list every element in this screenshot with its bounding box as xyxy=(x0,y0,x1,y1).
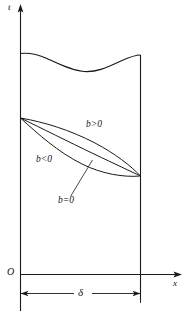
free-surface-curve xyxy=(21,53,141,71)
x-axis-label: x xyxy=(173,279,177,288)
delta-label: δ xyxy=(78,287,83,298)
figure-container: t x O δ b>0 b<0 b=0 xyxy=(0,0,185,318)
figure-canvas xyxy=(0,0,185,318)
t-axis-label: t xyxy=(8,3,11,12)
curve-label-b-positive-text: b>0 xyxy=(86,119,102,129)
curve-label-b-negative: b<0 xyxy=(36,155,52,165)
b-zero-leader-line xyxy=(71,160,93,197)
curve-label-b-positive: b>0 xyxy=(86,120,102,130)
curve-b-zero xyxy=(21,118,141,176)
curve-label-b-zero-text: b=0 xyxy=(58,195,74,205)
curve-label-b-zero: b=0 xyxy=(58,196,74,206)
curve-label-b-negative-text: b<0 xyxy=(36,154,52,164)
origin-label: O xyxy=(7,267,14,277)
